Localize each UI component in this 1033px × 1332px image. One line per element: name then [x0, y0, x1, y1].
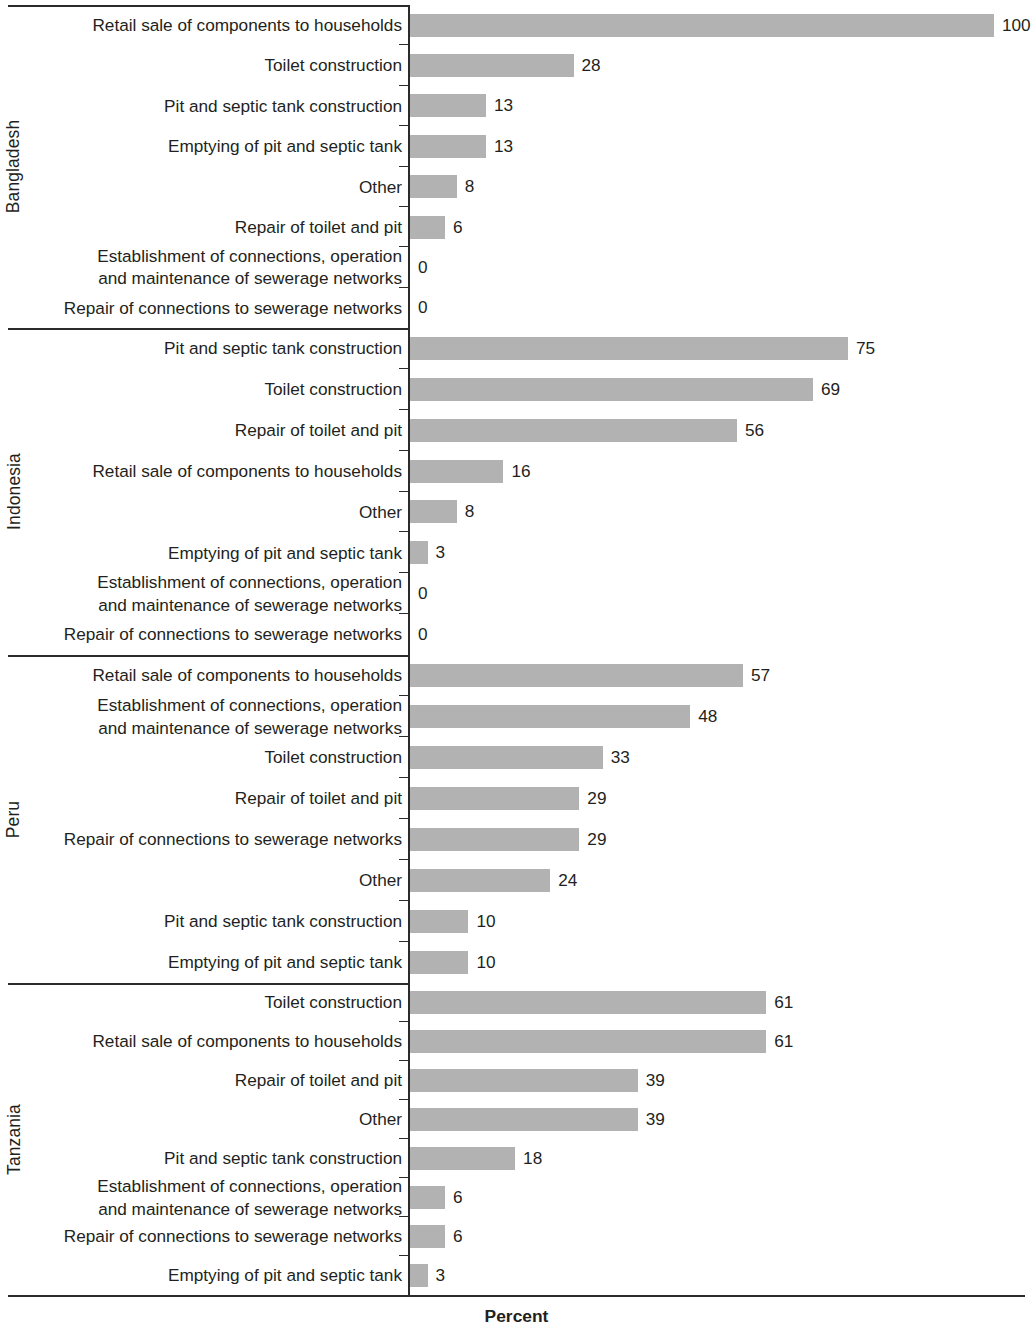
category-label: Retail sale of components to households — [92, 5, 402, 45]
category-label: Repair of toilet and pit — [235, 207, 402, 247]
bar-row: Retail sale of components to households1… — [0, 451, 1033, 492]
bar — [410, 828, 579, 851]
category-label-line: Emptying of pit and septic tank — [168, 542, 402, 564]
category-label: Pit and septic tank construction — [164, 328, 402, 369]
bar — [410, 541, 428, 564]
category-label: Pit and septic tank construction — [164, 1139, 402, 1178]
bar — [410, 951, 468, 974]
bar — [410, 787, 579, 810]
category-label-line: Establishment of connections, operation — [97, 571, 402, 593]
category-label-line: Retail sale of components to households — [92, 460, 402, 482]
category-label-line: Emptying of pit and septic tank — [168, 135, 402, 157]
bar-value-label: 16 — [511, 460, 530, 483]
category-label: Retail sale of components to households — [92, 1022, 402, 1061]
category-label-line: Pit and septic tank construction — [164, 337, 402, 359]
bar-row: Toilet construction33 — [0, 737, 1033, 778]
category-label: Establishment of connections, operationa… — [97, 247, 402, 287]
bar — [410, 419, 737, 442]
category-label: Toilet construction — [264, 737, 402, 778]
bar-value-label: 56 — [745, 419, 764, 442]
category-label: Emptying of pit and septic tank — [168, 126, 402, 166]
category-label: Other — [359, 1100, 402, 1139]
bar — [410, 1069, 638, 1092]
country-group-indonesia: IndonesiaPit and septic tank constructio… — [0, 328, 1033, 655]
bar-row: Pit and septic tank construction10 — [0, 901, 1033, 942]
category-label: Other — [359, 167, 402, 207]
bar — [410, 869, 550, 892]
bar-value-label: 69 — [821, 378, 840, 401]
bar-value-label: 28 — [582, 54, 601, 77]
bar-value-label: 18 — [523, 1147, 542, 1170]
category-label-line: Repair of toilet and pit — [235, 419, 402, 441]
bar — [410, 1108, 638, 1131]
bar-value-label: 10 — [476, 951, 495, 974]
bar-row: Other24 — [0, 860, 1033, 901]
bar-row: Repair of toilet and pit29 — [0, 778, 1033, 819]
bar-value-label: 13 — [494, 94, 513, 117]
bar — [410, 135, 486, 158]
category-label-line: Repair of connections to sewerage networ… — [64, 297, 402, 319]
category-label: Emptying of pit and septic tank — [168, 1256, 402, 1295]
bar — [410, 54, 574, 77]
category-label-line: Repair of connections to sewerage networ… — [64, 1225, 402, 1247]
bar-value-label: 75 — [856, 337, 875, 360]
category-label: Retail sale of components to households — [92, 655, 402, 696]
x-axis-title: Percent — [0, 1306, 1033, 1327]
category-label-line: Pit and septic tank construction — [164, 1147, 402, 1169]
bar — [410, 175, 457, 198]
bar-row: Establishment of connections, operationa… — [0, 1178, 1033, 1217]
bar-row: Retail sale of components to households6… — [0, 1022, 1033, 1061]
bar-value-label: 24 — [558, 869, 577, 892]
category-label-line: Repair of connections to sewerage networ… — [64, 623, 402, 645]
bar — [410, 378, 813, 401]
bar-value-label: 3 — [436, 541, 446, 564]
category-label-line: Repair of toilet and pit — [235, 216, 402, 238]
category-label: Repair of toilet and pit — [235, 1061, 402, 1100]
bar-row: Repair of connections to sewerage networ… — [0, 819, 1033, 860]
bar-row: Repair of toilet and pit56 — [0, 410, 1033, 451]
bar — [410, 94, 486, 117]
bar-row: Other8 — [0, 167, 1033, 207]
category-label: Repair of connections to sewerage networ… — [64, 1217, 402, 1256]
category-label-line: Toilet construction — [264, 991, 402, 1013]
bar — [410, 910, 468, 933]
bar — [410, 216, 445, 239]
bar-value-label: 3 — [436, 1264, 446, 1287]
bar-value-label: 8 — [465, 500, 475, 523]
bar-row: Other8 — [0, 492, 1033, 533]
category-label: Toilet construction — [264, 45, 402, 85]
bar-row: Toilet construction28 — [0, 45, 1033, 85]
bar-value-label: 61 — [774, 1030, 793, 1053]
bar — [410, 1225, 445, 1248]
category-label-line: Repair of connections to sewerage networ… — [64, 828, 402, 850]
bar — [410, 664, 743, 687]
bar-row: Emptying of pit and septic tank13 — [0, 126, 1033, 166]
bar — [410, 1186, 445, 1209]
category-label: Establishment of connections, operationa… — [97, 573, 402, 614]
category-label: Emptying of pit and septic tank — [168, 532, 402, 573]
bar — [410, 1147, 515, 1170]
category-label: Retail sale of components to households — [92, 451, 402, 492]
bar — [410, 14, 994, 37]
category-label-line: Other — [359, 869, 402, 891]
category-label-line: and maintenance of sewerage networks — [98, 594, 402, 616]
x-axis-line — [8, 1295, 1025, 1297]
bar-row: Establishment of connections, operationa… — [0, 573, 1033, 614]
category-label-line: Retail sale of components to households — [92, 1030, 402, 1052]
category-label: Emptying of pit and septic tank — [168, 942, 402, 983]
category-label: Other — [359, 860, 402, 901]
bar — [410, 705, 690, 728]
bar-row: Pit and septic tank construction18 — [0, 1139, 1033, 1178]
bar-row: Repair of toilet and pit39 — [0, 1061, 1033, 1100]
bar-value-label: 13 — [494, 135, 513, 158]
bar-value-label: 10 — [476, 910, 495, 933]
category-label-line: Toilet construction — [264, 54, 402, 76]
category-label-line: Emptying of pit and septic tank — [168, 951, 402, 973]
bar-row: Toilet construction61 — [0, 983, 1033, 1022]
bar-value-label: 29 — [587, 787, 606, 810]
country-group-tanzania: TanzaniaToilet construction61Retail sale… — [0, 983, 1033, 1295]
bar — [410, 1030, 766, 1053]
bar-value-label: 8 — [465, 175, 475, 198]
category-label-line: Other — [359, 501, 402, 523]
bar-row: Repair of connections to sewerage networ… — [0, 1217, 1033, 1256]
